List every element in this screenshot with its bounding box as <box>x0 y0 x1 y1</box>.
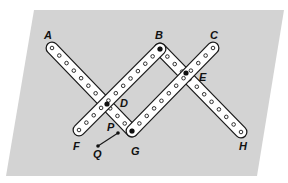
bar-hole <box>211 46 215 50</box>
bar-hole <box>138 122 142 126</box>
pivot-g <box>129 128 134 133</box>
bar-hole <box>239 130 243 134</box>
label-c: C <box>210 29 219 41</box>
bar-hole <box>204 54 208 58</box>
bar-hole <box>87 84 91 88</box>
bar-hole <box>196 61 200 65</box>
bar-hole <box>79 76 83 80</box>
label-g: G <box>131 145 140 157</box>
pivot-d <box>104 101 109 106</box>
bar-hole <box>173 62 177 66</box>
bar-hole <box>167 91 171 95</box>
pantograph-diagram: ABCDEFGHPQ <box>0 0 288 183</box>
bar-hole <box>160 99 164 103</box>
bar-hole <box>65 61 69 65</box>
bar-hole <box>143 62 147 66</box>
bar-hole <box>195 85 199 89</box>
bar-hole <box>114 91 118 95</box>
bar-hole <box>50 46 54 50</box>
bar-hole <box>152 107 156 111</box>
label-p: P <box>107 121 115 133</box>
bar-hole <box>202 92 206 96</box>
bar-hole <box>145 114 149 118</box>
bar-hole <box>217 108 221 112</box>
bar-hole <box>77 128 81 132</box>
bar-hole <box>99 106 103 110</box>
bar-hole <box>151 55 155 59</box>
bar-hole <box>136 69 140 73</box>
bar-hole <box>166 55 170 59</box>
label-a: A <box>43 29 52 41</box>
bar-hole <box>57 54 61 58</box>
label-q: Q <box>93 148 102 160</box>
bar-hole <box>182 76 186 80</box>
bar-hole <box>121 84 125 88</box>
bar-hole <box>232 123 236 127</box>
bar-hole <box>189 69 193 73</box>
bar-hole <box>129 77 133 81</box>
bar-hole <box>72 69 76 73</box>
bar-hole <box>116 114 120 118</box>
label-b: B <box>155 29 163 41</box>
label-h: H <box>239 140 248 152</box>
label-e: E <box>199 71 207 83</box>
label-f: F <box>73 140 80 152</box>
bar-hole <box>174 84 178 88</box>
label-d: D <box>120 97 128 109</box>
bar-hole <box>85 121 89 125</box>
bar-hole <box>94 91 98 95</box>
bar-hole <box>123 122 127 126</box>
bar-hole <box>92 113 96 117</box>
pivot-b <box>157 46 162 51</box>
bar-hole <box>210 100 214 104</box>
point-p-dot <box>116 131 120 135</box>
bar-hole <box>224 115 228 119</box>
pivot-e <box>183 70 188 75</box>
